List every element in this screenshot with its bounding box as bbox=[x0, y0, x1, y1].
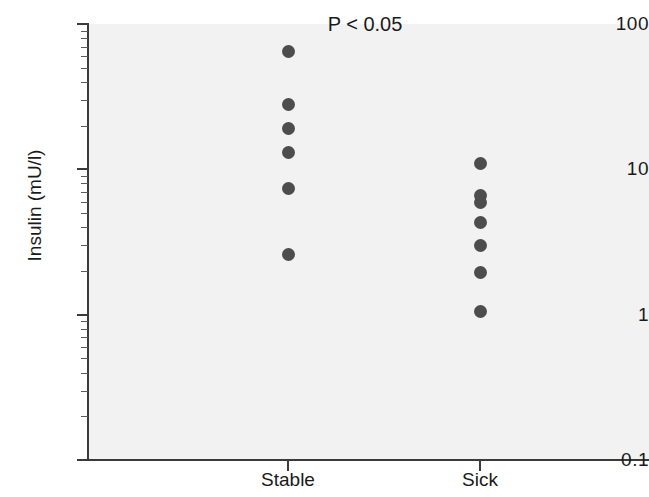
y-tick-100 bbox=[77, 23, 88, 25]
data-point-sick bbox=[474, 157, 487, 170]
x-tick-label-sick: Sick bbox=[400, 470, 560, 489]
y-axis-line bbox=[87, 23, 89, 461]
y-minor-tick bbox=[81, 192, 88, 193]
y-minor-tick bbox=[81, 358, 88, 359]
y-minor-tick bbox=[81, 391, 88, 392]
insulin-dot-plot-figure: Insulin (mU/l) 1001010.1 StableSick P < … bbox=[0, 0, 649, 497]
y-minor-tick bbox=[81, 68, 88, 69]
y-minor-tick bbox=[81, 373, 88, 374]
x-tick-label-stable: Stable bbox=[208, 470, 368, 489]
y-minor-tick bbox=[81, 321, 88, 322]
y-tick-label-0.1: 0.1 bbox=[577, 450, 649, 469]
data-point-stable bbox=[282, 248, 295, 261]
data-point-sick bbox=[474, 305, 487, 318]
y-minor-tick bbox=[81, 176, 88, 177]
data-point-sick bbox=[474, 266, 487, 279]
y-minor-tick bbox=[81, 416, 88, 417]
data-point-sick bbox=[474, 196, 487, 209]
y-minor-tick bbox=[81, 245, 88, 246]
y-minor-tick bbox=[81, 329, 88, 330]
y-minor-tick bbox=[81, 213, 88, 214]
y-tick-0.1 bbox=[77, 459, 88, 461]
data-point-stable bbox=[282, 122, 295, 135]
data-point-stable bbox=[282, 146, 295, 159]
y-axis-title: Insulin (mU/l) bbox=[25, 86, 44, 326]
data-point-stable bbox=[282, 98, 295, 111]
y-tick-10 bbox=[77, 168, 88, 170]
y-minor-tick bbox=[81, 47, 88, 48]
y-minor-tick bbox=[81, 126, 88, 127]
y-minor-tick bbox=[81, 347, 88, 348]
y-minor-tick bbox=[81, 227, 88, 228]
y-minor-tick bbox=[81, 202, 88, 203]
y-minor-tick bbox=[81, 31, 88, 32]
data-point-stable bbox=[282, 45, 295, 58]
plot-area bbox=[88, 24, 649, 460]
y-minor-tick bbox=[81, 183, 88, 184]
y-tick-1 bbox=[77, 314, 88, 316]
y-axis-title-container: Insulin (mU/l) bbox=[0, 0, 77, 497]
y-minor-tick bbox=[81, 271, 88, 272]
data-point-sick bbox=[474, 239, 487, 252]
data-point-sick bbox=[474, 216, 487, 229]
y-tick-label-10: 10 bbox=[577, 159, 649, 178]
y-minor-tick bbox=[81, 38, 88, 39]
significance-annotation: P < 0.05 bbox=[300, 14, 430, 34]
y-tick-label-1: 1 bbox=[577, 305, 649, 324]
y-minor-tick bbox=[81, 100, 88, 101]
y-tick-label-100: 100 bbox=[577, 14, 649, 33]
y-minor-tick bbox=[81, 56, 88, 57]
data-point-stable bbox=[282, 182, 295, 195]
y-minor-tick bbox=[81, 82, 88, 83]
x-axis-line bbox=[87, 459, 649, 461]
y-minor-tick bbox=[81, 337, 88, 338]
